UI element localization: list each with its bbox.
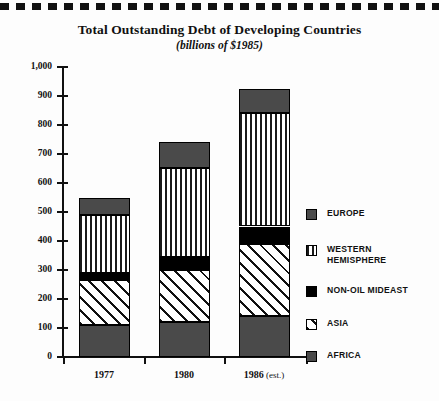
y-tick <box>57 298 68 300</box>
legend-item-non-oil-mideast[interactable]: NON-OIL MIDEAST <box>306 285 408 297</box>
legend-label: ASIA <box>327 318 349 329</box>
legend-label: AFRICA <box>327 350 361 361</box>
y-tick-label: 300 <box>4 264 52 274</box>
bar-1977 <box>79 198 130 358</box>
bar-segment-europe <box>239 89 290 114</box>
bar-segment-europe <box>159 142 210 168</box>
y-tick <box>57 95 68 97</box>
y-tick <box>57 153 68 155</box>
bar-segment-africa <box>79 325 130 357</box>
y-tick-label: 400 <box>4 235 52 245</box>
bar-segment-europe <box>79 198 130 215</box>
x-tick <box>63 356 65 364</box>
y-tick-label: 500 <box>4 206 52 216</box>
x-label-year: 1980 <box>174 369 194 380</box>
x-label-estimate-note: (est.) <box>264 370 285 380</box>
bar-segment-africa <box>239 316 290 357</box>
y-tick-label: 600 <box>4 177 52 187</box>
legend-label: EUROPE <box>327 208 365 219</box>
bar-segment-western-hemisphere <box>79 215 130 273</box>
y-tick <box>57 240 68 242</box>
legend-item-western-hemisphere[interactable]: WESTERN HEMISPHERE <box>306 244 386 265</box>
x-label-year: 1986 <box>244 369 264 380</box>
y-tick-label: 1,000 <box>4 61 52 71</box>
bar-segment-non-oil-mideast <box>79 273 130 280</box>
legend-label: WESTERN HEMISPHERE <box>327 244 386 265</box>
bar-segment-non-oil-mideast <box>159 257 210 270</box>
bar-segment-asia <box>159 270 210 322</box>
bar-segment-africa <box>159 322 210 357</box>
bar-1986-est- <box>239 89 290 357</box>
legend-swatch-solid-dark-gray-icon <box>306 351 317 362</box>
y-tick-label: 800 <box>4 119 52 129</box>
x-axis-label: 1977 <box>59 369 149 380</box>
x-label-year: 1977 <box>94 369 114 380</box>
y-tick <box>57 327 68 329</box>
y-tick-label: 200 <box>4 293 52 303</box>
y-tick <box>57 124 68 126</box>
plot-area: 01002003004005006007008009001,000 197719… <box>0 0 439 401</box>
legend-swatch-diagonal-hatch-icon <box>306 319 317 330</box>
x-tick <box>144 356 146 364</box>
x-axis-label: 1986 (est.) <box>219 369 309 380</box>
bar-segment-asia <box>79 280 130 325</box>
bar-segment-non-oil-mideast <box>239 227 290 244</box>
y-tick-label: 700 <box>4 148 52 158</box>
y-tick-label: 0 <box>4 351 52 361</box>
y-tick <box>57 182 68 184</box>
y-tick <box>57 211 68 213</box>
chart-page: Total Outstanding Debt of Developing Cou… <box>0 0 439 401</box>
bar-segment-western-hemisphere <box>159 168 210 256</box>
bar-1980 <box>159 142 210 357</box>
y-tick <box>57 269 68 271</box>
legend-swatch-solid-black-icon <box>306 286 317 297</box>
bar-segment-western-hemisphere <box>239 113 290 226</box>
legend-swatch-solid-dark-gray-icon <box>306 209 317 220</box>
legend-item-asia[interactable]: ASIA <box>306 318 349 330</box>
legend-swatch-vertical-stripes-icon <box>306 245 317 256</box>
x-axis-label: 1980 <box>139 369 229 380</box>
legend-item-africa[interactable]: AFRICA <box>306 350 361 362</box>
x-tick <box>224 356 226 364</box>
legend-label: NON-OIL MIDEAST <box>327 285 408 296</box>
bar-segment-asia <box>239 244 290 317</box>
y-tick <box>57 66 68 68</box>
legend-item-europe[interactable]: EUROPE <box>306 208 365 220</box>
y-tick-label: 900 <box>4 90 52 100</box>
y-tick-label: 100 <box>4 322 52 332</box>
